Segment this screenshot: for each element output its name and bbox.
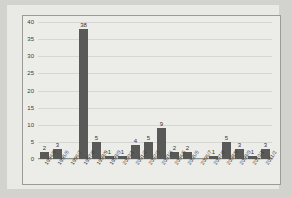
bar-value-label: 2 xyxy=(173,145,176,151)
bar-slot xyxy=(64,22,77,159)
x-axis-label-slot: 1994/5 xyxy=(38,161,51,189)
x-axis-label-slot: 2011/2 xyxy=(259,161,272,189)
bar-slot: 1 xyxy=(246,22,259,159)
x-axis-label-slot: 1999/0 xyxy=(103,161,116,189)
bar-value-label: 3 xyxy=(56,142,59,148)
bar-slot: 3 xyxy=(51,22,64,159)
y-axis-tick-label: 40 xyxy=(27,19,34,25)
bar-slot: 2 xyxy=(181,22,194,159)
bar-value-label: 5 xyxy=(147,135,150,141)
x-axis-label-slot: 2001/2 xyxy=(129,161,142,189)
bar-slot: 1 xyxy=(207,22,220,159)
x-axis-label-slot: 1997/8 xyxy=(77,161,90,189)
bar-slot: 9 xyxy=(155,22,168,159)
bar-value-label: 4 xyxy=(134,138,137,144)
bar-value-label: 5 xyxy=(95,135,98,141)
y-axis-tick-label: 20 xyxy=(27,88,34,94)
x-axis-label-slot: 2008/9 xyxy=(220,161,233,189)
x-axis-label-slot: 2009/0 xyxy=(233,161,246,189)
bar-slot: 1 xyxy=(116,22,129,159)
x-axis-label-slot: 2002/3 xyxy=(142,161,155,189)
y-axis-tick-label: 35 xyxy=(27,36,34,42)
y-axis-tick-label: 0 xyxy=(31,156,34,162)
chart-paper-background: 0510152025303540 23385114592215313 1994/… xyxy=(7,5,279,189)
x-axis-label-slot: 1998/9 xyxy=(90,161,103,189)
bar-slot: 3 xyxy=(259,22,272,159)
y-axis-tick-label: 10 xyxy=(27,122,34,128)
y-axis-tick-label: 15 xyxy=(27,105,34,111)
bar-value-label: 38 xyxy=(80,22,87,28)
bar-slot: 2 xyxy=(168,22,181,159)
plot-area: 0510152025303540 23385114592215313 xyxy=(38,22,272,159)
bar-value-label: 3 xyxy=(264,142,267,148)
x-axis-label-slot: 2010/1 xyxy=(246,161,259,189)
x-axis-label-slot: 1995/6 xyxy=(51,161,64,189)
y-axis-tick-label: 30 xyxy=(27,53,34,59)
bar xyxy=(79,29,87,159)
x-axis-label-slot: 1996/7 xyxy=(64,161,77,189)
x-axis-label-slot: 2003/4 xyxy=(155,161,168,189)
bar-slot: 3 xyxy=(233,22,246,159)
x-axis-label-slot: 2005/6 xyxy=(181,161,194,189)
y-axis-tick-label: 5 xyxy=(31,139,34,145)
bar-slot: 38 xyxy=(77,22,90,159)
bar-slot: 5 xyxy=(90,22,103,159)
y-axis-tick-label: 25 xyxy=(27,70,34,76)
bar-slot: 4 xyxy=(129,22,142,159)
bar-slot xyxy=(194,22,207,159)
x-axis-label-slot: 2006/7 xyxy=(194,161,207,189)
chart-page: 0510152025303540 23385114592215313 1994/… xyxy=(0,0,292,197)
x-axis-label-slot: 2004/5 xyxy=(168,161,181,189)
x-axis-label-slot: 2000/1 xyxy=(116,161,129,189)
bar-value-label: 2 xyxy=(43,145,46,151)
x-axis-label-slot: 2007/8 xyxy=(207,161,220,189)
bar-slot: 2 xyxy=(38,22,51,159)
bar-value-label: 9 xyxy=(160,121,163,127)
bar-slot: 1 xyxy=(103,22,116,159)
bar-value-label: 5 xyxy=(225,135,228,141)
bar-value-label: 2 xyxy=(186,145,189,151)
bar-series: 23385114592215313 xyxy=(38,22,272,159)
bar-slot: 5 xyxy=(142,22,155,159)
bar-value-label: 3 xyxy=(238,142,241,148)
x-axis-labels: 1994/51995/61996/71997/81998/91999/02000… xyxy=(38,161,272,189)
bar-slot: 5 xyxy=(220,22,233,159)
